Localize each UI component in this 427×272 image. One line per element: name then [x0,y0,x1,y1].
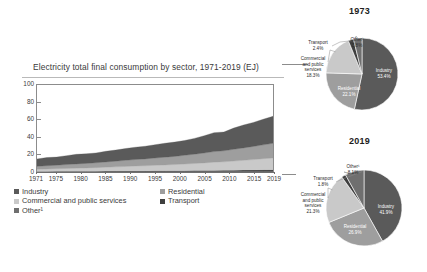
pie-1973-label-transport: Transport 2.4% [301,40,335,51]
x-tick-mark [274,172,275,174]
pie-2019-label-commercial: Commercial and public services 21.3% [294,192,332,215]
legend-row: Other¹ [14,207,286,214]
x-tick-label: 2015 [247,176,261,182]
y-tick-mark [36,154,41,155]
x-tick-label: 2000 [173,176,187,182]
pie-2019-label-transport: Transport 1.8% [306,176,340,187]
legend-swatch-commercial [14,199,19,204]
pie-2019-stage: Other¹ 8.1% Transport 1.8% Commercial an… [292,146,427,256]
stacked-area-series [37,85,273,172]
pie-2019-label-industry: Industry 41.9% [370,204,402,215]
y-tick-label: 100 [10,81,34,87]
y-tick-mark [36,102,41,103]
area-plot-wrapper: 1971197519801985199019952000200520102015… [0,84,292,186]
left-rule-2019 [282,174,296,175]
x-tick-mark [254,172,255,174]
x-tick-label: 1985 [98,176,112,182]
legend-row: Industry Residential [14,188,286,195]
pie-chart-1973: 1973 Transport 2.4% Other¹ 3.8% Commerci… [292,6,427,132]
y-tick-label: 60 [10,116,34,122]
pie-1973-label-industry: Industry 53.4% [368,68,400,79]
y-tick-mark [36,119,41,120]
legend-swatch-transport [160,199,165,204]
y-tick-label: 0 [10,169,34,175]
x-tick-label: 2010 [222,176,236,182]
x-axis-ticks: 1971197519801985199019952000200520102015… [0,174,292,186]
pie-1973-label-residential: Residential 22.1% [332,86,366,97]
area-chart-panel: Electricity total final consumption by s… [0,62,292,242]
legend-label-other: Other¹ [22,207,43,214]
pie-1973-label-other: Other¹ 3.8% [344,37,370,48]
pie-2019-label-residential: Residential 26.9% [338,224,372,235]
x-tick-mark [130,172,131,174]
legend-swatch-residential [160,189,165,194]
title-divider [22,77,284,78]
area-chart-title: Electricity total final consumption by s… [0,62,292,72]
y-tick-label: 20 [10,151,34,157]
legend-item-other: Other¹ [14,207,160,214]
pie-2019-year: 2019 [292,136,427,146]
legend-item-transport: Transport [160,197,199,204]
area-chart-legend: Industry Residential Commercial and publ… [14,188,286,216]
legend-label-residential: Residential [168,188,205,195]
y-tick-mark [36,137,41,138]
y-tick-label: 80 [10,99,34,105]
pie-chart-2019: 2019 Other¹ 8.1% Transport 1.8% Commerci… [292,136,427,268]
x-tick-mark [180,172,181,174]
y-tick-mark [36,84,41,85]
x-tick-label: 1990 [123,176,137,182]
legend-label-industry: Industry [22,188,48,195]
pie-2019-label-other: Other¹ 8.1% [340,164,366,175]
pie-1973-label-commercial: Commercial and public services 18.3% [295,56,331,79]
x-tick-mark [205,172,206,174]
pie-1973-stage: Transport 2.4% Other¹ 3.8% Commercial an… [292,16,427,120]
area-plot-area [36,84,274,172]
x-tick-mark [105,172,106,174]
x-tick-label: 1980 [74,176,88,182]
legend-label-transport: Transport [168,197,199,204]
legend-item-commercial: Commercial and public services [14,197,160,204]
legend-row: Commercial and public services Transport [14,197,286,204]
legend-label-commercial: Commercial and public services [22,197,126,204]
x-tick-label: 1975 [49,176,63,182]
y-tick-label: 40 [10,134,34,140]
legend-item-residential: Residential [160,188,205,195]
x-tick-label: 1995 [148,176,162,182]
x-tick-mark [36,172,37,174]
legend-item-industry: Industry [14,188,160,195]
x-tick-label: 2005 [197,176,211,182]
x-tick-mark [56,172,57,174]
x-tick-mark [81,172,82,174]
legend-swatch-other [14,208,19,213]
legend-swatch-industry [14,189,19,194]
x-tick-mark [155,172,156,174]
x-tick-label: 2019 [267,176,281,182]
x-tick-label: 1971 [29,176,43,182]
x-tick-mark [229,172,230,174]
pie-1973-year: 1973 [292,6,427,16]
